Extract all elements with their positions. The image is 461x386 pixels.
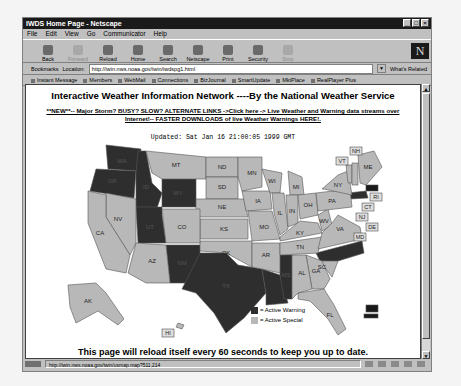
atlantic-warning-marker[interactable]: [366, 305, 378, 312]
svg-text:MI: MI: [293, 184, 300, 190]
home-button[interactable]: Home: [123, 45, 153, 62]
smartupdate-link[interactable]: SmartUpdate: [232, 77, 270, 83]
svg-text:NE: NE: [218, 204, 226, 210]
svg-text:ID: ID: [143, 184, 150, 190]
state-fl[interactable]: [298, 289, 346, 335]
svg-text:NM: NM: [177, 260, 186, 266]
browser-window: IWDS Home Page - Netscape _ □ × File Edi…: [22, 17, 432, 372]
menu-view[interactable]: View: [65, 29, 79, 39]
svg-text:MT: MT: [172, 162, 181, 168]
svg-text:ME: ME: [364, 164, 373, 170]
svg-text:VA: VA: [336, 226, 344, 232]
svg-text:WA: WA: [117, 158, 126, 164]
menu-file[interactable]: File: [27, 29, 37, 39]
status-bar: http://iwin.nws.noaa.gov/iwin/usmap.map?…: [25, 359, 429, 369]
ri-warning-marker[interactable]: [366, 185, 378, 191]
reload-button[interactable]: Reload: [93, 45, 123, 62]
svg-text:PA: PA: [328, 198, 336, 204]
svg-text:UT: UT: [146, 224, 154, 230]
close-button[interactable]: ×: [421, 19, 429, 27]
forward-button[interactable]: Forward: [63, 45, 93, 62]
navigation-toolbar: Back Forward Reload Home Search Netscape…: [23, 39, 431, 63]
location-label: Location:: [63, 66, 85, 72]
menu-help[interactable]: Help: [154, 29, 167, 39]
component-bar-composer-icon[interactable]: [404, 361, 412, 367]
svg-text:NH: NH: [352, 148, 360, 154]
state-nh[interactable]: [352, 163, 358, 185]
menu-bar: File Edit View Go Communicator Help: [23, 29, 431, 39]
connection-status-icon: [25, 361, 41, 367]
svg-text:OR: OR: [108, 178, 118, 184]
stop-button[interactable]: Stop: [273, 45, 303, 62]
menu-go[interactable]: Go: [87, 29, 96, 39]
state-ak[interactable]: [68, 283, 124, 325]
instant-message-link[interactable]: Instant Message: [31, 77, 77, 83]
state-hi[interactable]: [176, 323, 184, 329]
netscape-button[interactable]: Netscape: [183, 45, 213, 62]
vertical-scrollbar[interactable]: ▲ ▼: [421, 84, 430, 359]
svg-text:CA: CA: [96, 230, 104, 236]
print-icon: [223, 45, 233, 55]
menu-communicator[interactable]: Communicator: [103, 29, 145, 39]
search-icon: [163, 45, 173, 55]
svg-text:RI: RI: [373, 194, 379, 200]
stop-icon: [283, 45, 293, 55]
svg-text:VT: VT: [338, 158, 346, 164]
url-input[interactable]: http://iwin.nws.noaa.gov/iwin/iwdspg1.ht…: [89, 64, 373, 74]
svg-text:FL: FL: [326, 312, 334, 318]
scroll-up-button[interactable]: ▲: [422, 84, 430, 92]
component-bar-mail-icon[interactable]: [378, 361, 386, 367]
svg-text:AR: AR: [262, 252, 271, 258]
webmail-link[interactable]: WebMail: [118, 77, 145, 83]
security-button[interactable]: Security: [243, 45, 273, 62]
svg-text:NV: NV: [114, 216, 122, 222]
scroll-down-button[interactable]: ▼: [422, 351, 430, 359]
search-button[interactable]: Search: [153, 45, 183, 62]
svg-text:DE: DE: [368, 224, 376, 230]
state-mi[interactable]: [288, 171, 304, 195]
svg-text:IN: IN: [289, 208, 295, 214]
svg-text:TN: TN: [296, 244, 304, 250]
svg-text:KY: KY: [296, 230, 304, 236]
svg-text:HI: HI: [165, 330, 171, 336]
component-bar-navigator-icon[interactable]: [365, 361, 373, 367]
print-button[interactable]: Print: [213, 45, 243, 62]
scroll-thumb[interactable]: [422, 93, 430, 339]
url-dropdown-button[interactable]: ▼: [377, 64, 386, 73]
back-button[interactable]: Back: [33, 45, 63, 62]
alternate-links-link[interactable]: **NEW**-- Major Storm? BUSY? SLOW? ALTER…: [40, 107, 406, 123]
window-title: IWDS Home Page - Netscape: [26, 20, 122, 27]
bookmarks-button[interactable]: Bookmarks: [31, 66, 59, 72]
svg-text:ND: ND: [218, 164, 227, 170]
realplayer-link[interactable]: RealPlayer Plus: [311, 77, 356, 83]
svg-text:TX: TX: [222, 283, 230, 289]
svg-text:IL: IL: [277, 210, 283, 216]
svg-text:AL: AL: [298, 270, 306, 276]
svg-text:MS: MS: [282, 272, 291, 278]
updated-timestamp: Updated: Sat Jan 16 21:00:05 1999 GMT: [26, 134, 420, 141]
members-link[interactable]: Members: [83, 77, 112, 83]
component-bar-aim-icon[interactable]: [417, 361, 425, 367]
us-warning-map[interactable]: WAOR IDWY UTNM TXMS MTNDSD NEKSOK CONVCA…: [66, 143, 386, 343]
svg-text:CT: CT: [364, 204, 372, 210]
connections-link[interactable]: Connections: [152, 77, 189, 83]
home-icon: [133, 45, 143, 55]
whats-related-button[interactable]: What's Related: [390, 66, 431, 72]
page-heading: Interactive Weather Information Network …: [26, 90, 420, 101]
bizjournal-link[interactable]: BizJournal: [194, 77, 226, 83]
warning-swatch: [251, 307, 258, 314]
title-bar[interactable]: IWDS Home Page - Netscape _ □ ×: [23, 18, 431, 29]
maximize-button[interactable]: □: [412, 19, 420, 27]
location-bar: Bookmarks Location: http://iwin.nws.noaa…: [23, 63, 431, 75]
svg-text:MD: MD: [356, 234, 365, 240]
menu-edit[interactable]: Edit: [45, 29, 56, 39]
component-bar-groups-icon[interactable]: [391, 361, 399, 367]
special-swatch: [251, 317, 258, 324]
minimize-button[interactable]: _: [403, 19, 411, 27]
lock-icon: [253, 45, 263, 55]
svg-text:WY: WY: [173, 190, 183, 196]
mktplace-link[interactable]: MktPlace: [276, 77, 305, 83]
netscape-logo[interactable]: N: [411, 43, 429, 59]
atlantic-warning-marker-2[interactable]: [364, 314, 378, 318]
svg-text:SD: SD: [218, 184, 227, 190]
